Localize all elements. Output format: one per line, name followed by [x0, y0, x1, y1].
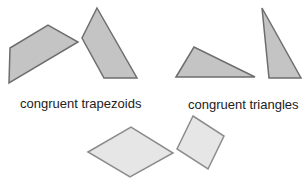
triangle-shape — [262, 8, 301, 78]
figure: congruent trapezoids congruent triangles — [0, 0, 306, 190]
triangles-label: congruent triangles — [188, 97, 299, 112]
rhombus-shape — [88, 127, 173, 177]
square-shape — [177, 116, 224, 169]
trapezoids-label: congruent trapezoids — [20, 96, 141, 111]
shapes-canvas — [0, 0, 306, 190]
trapezoid-shape — [9, 25, 78, 83]
trapezoid-shape — [82, 8, 137, 78]
triangle-shape — [176, 47, 255, 77]
